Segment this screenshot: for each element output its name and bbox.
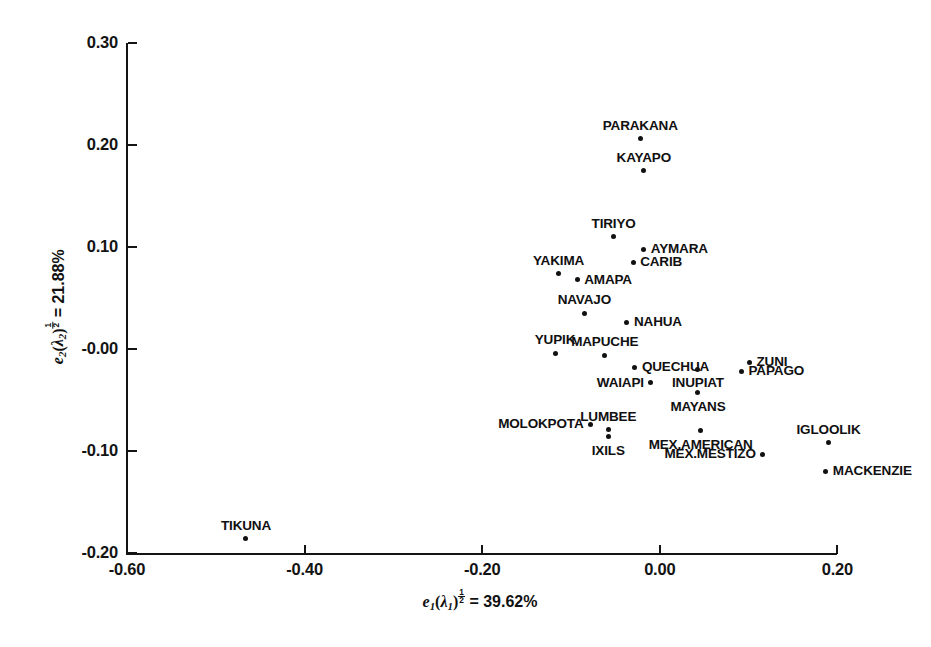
y-axis-title: e2(λ2)12 = 21.88% — [45, 157, 68, 457]
data-point-marker — [698, 428, 703, 433]
data-point-label: KAYAPO — [617, 150, 671, 164]
data-point-label: MOLOKPOTA — [498, 418, 583, 432]
x-axis-exponent-half: 12 — [458, 589, 465, 604]
x-axis-tick-label: -0.60 — [87, 560, 167, 579]
data-point-label: LUMBEE — [580, 409, 636, 423]
data-point-marker — [760, 452, 765, 457]
data-point-marker — [826, 440, 831, 445]
x-axis-tick-mark — [836, 545, 838, 554]
plot-surface: 0.300.200.10-0.00-0.10-0.20 -0.60-0.40-0… — [0, 0, 931, 647]
x-axis-variable-symbol: e1 — [423, 593, 436, 610]
data-point-marker — [632, 365, 637, 370]
data-point-label: INUPIAT — [672, 376, 724, 390]
x-axis-value: = 39.62% — [469, 593, 537, 610]
data-point-marker — [606, 427, 611, 432]
data-point-label: YUPIK — [535, 333, 576, 347]
x-axis-tick-mark — [126, 545, 128, 554]
y-axis-paren-close: ) — [50, 328, 67, 333]
scatter-plot-figure: 0.300.200.10-0.00-0.10-0.20 -0.60-0.40-0… — [0, 0, 931, 647]
y-axis-value: = 21.88% — [50, 249, 67, 317]
y-axis-exponent-half: 12 — [45, 322, 60, 329]
data-point-marker — [611, 234, 616, 239]
data-point-label: MACKENZIE — [833, 465, 912, 479]
y-axis-paren-open: ( — [50, 346, 67, 351]
data-point-label: MAYANS — [670, 400, 725, 414]
x-axis-tick-mark — [304, 545, 306, 554]
x-axis-tick-label: -0.20 — [442, 560, 522, 579]
data-point-label: TIKUNA — [221, 518, 271, 532]
data-point-marker — [624, 320, 629, 325]
data-point-marker — [695, 390, 700, 395]
data-point-label: PAPAGO — [748, 365, 804, 379]
data-point-marker — [556, 271, 561, 276]
data-point-label: CARIB — [640, 256, 682, 270]
y-axis-tick-mark — [128, 450, 137, 452]
data-point-label: MAPUCHE — [571, 335, 638, 349]
data-point-marker — [243, 536, 248, 541]
x-axis-tick-label: 0.20 — [797, 560, 877, 579]
data-point-label: NAVAJO — [558, 293, 611, 307]
y-axis-line — [126, 43, 128, 555]
data-point-label: TIRIYO — [592, 216, 636, 230]
y-axis-tick-label: 0.20 — [44, 135, 118, 154]
data-point-marker — [739, 369, 744, 374]
data-point-marker — [638, 136, 643, 141]
data-point-marker — [823, 469, 828, 474]
data-point-label: NAHUA — [634, 316, 682, 330]
y-axis-tick-mark — [128, 144, 137, 146]
x-axis-lambda-symbol: λ1 — [440, 593, 453, 610]
data-point-label: AMAPA — [584, 273, 632, 287]
data-point-label: YAKIMA — [533, 253, 584, 267]
data-point-marker — [648, 380, 653, 385]
y-axis-variable-symbol: e2 — [50, 352, 67, 365]
data-point-label: IXILS — [592, 444, 625, 458]
data-point-marker — [553, 351, 558, 356]
data-point-label: IGLOOLIK — [796, 422, 860, 436]
y-axis-tick-mark — [128, 42, 137, 44]
y-axis-tick-mark — [128, 348, 137, 350]
data-point-label: WAIAPI — [597, 376, 644, 390]
data-point-label: MEX.MESTIZO — [664, 447, 755, 461]
x-axis-tick-mark — [659, 545, 661, 554]
data-point-marker — [641, 247, 646, 252]
data-point-marker — [606, 434, 611, 439]
data-point-marker — [631, 260, 636, 265]
data-point-marker — [602, 353, 607, 358]
x-axis-tick-label: -0.40 — [265, 560, 345, 579]
y-axis-lambda-symbol: λ2 — [50, 334, 67, 347]
x-axis-title: e1(λ1)12 = 39.62% — [330, 589, 630, 612]
y-axis-tick-mark — [128, 246, 137, 248]
x-axis-tick-label: 0.00 — [620, 560, 700, 579]
data-point-marker — [641, 168, 646, 173]
x-axis-tick-mark — [481, 545, 483, 554]
data-point-marker — [575, 277, 580, 282]
y-axis-tick-label: 0.30 — [44, 33, 118, 52]
y-axis-tick-mark — [128, 552, 137, 554]
data-point-marker — [582, 311, 587, 316]
data-point-label: PARAKANA — [603, 118, 678, 132]
